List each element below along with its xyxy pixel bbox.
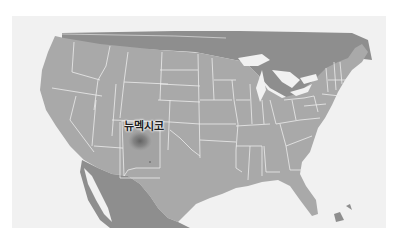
- highlight-blob: [128, 131, 152, 151]
- caribbean-islands: [334, 204, 352, 222]
- state-label-new-mexico: 뉴멕시코: [124, 117, 164, 133]
- map-frame[interactable]: [12, 16, 386, 228]
- us-map[interactable]: [12, 16, 386, 228]
- city-dot: [149, 161, 151, 163]
